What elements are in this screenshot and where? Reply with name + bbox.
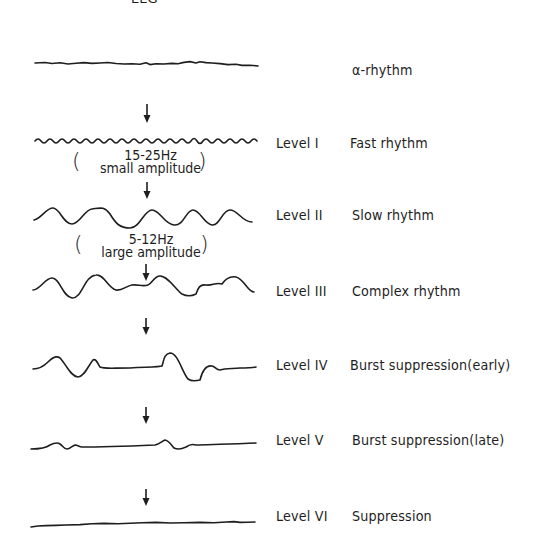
level-3-complex-wave [33,275,254,298]
level-5-burst-suppression-late-wave [31,440,256,449]
level-1-label: Level I [276,135,319,151]
close-paren: ) [200,231,209,256]
arrow-down-icon [143,318,150,335]
open-paren: ( [74,231,83,256]
arrow-down-icon [144,104,151,123]
arrow-down-icon [143,407,150,424]
slow-amplitude: large amplitude [84,246,219,259]
level-4-burst-suppression-early-wave [33,353,256,381]
close-paren: ) [198,148,207,173]
level-4-description: Burst suppression(early) [350,357,510,373]
level-2-label: Level II [276,207,323,223]
fast-rhythm-note: 15-25Hz small amplitude [85,149,216,175]
level-2-slow-wave [34,208,252,228]
level-1-fast-wave [35,139,257,144]
arrow-down-icon [143,264,150,281]
level-2-description: Slow rhythm [352,207,434,223]
level-6-suppression-wave [31,522,255,527]
level-6-description: Suppression [352,508,432,524]
level-3-label: Level III [276,283,327,299]
level-5-description: Burst suppression(late) [352,432,505,448]
open-paren: ( [72,148,81,173]
level-4-label: Level IV [276,357,328,373]
alpha-rhythm-label: α-rhythm [352,62,413,78]
level-5-label: Level V [276,432,324,448]
fast-amplitude: small amplitude [85,162,216,175]
level-3-description: Complex rhythm [352,283,461,299]
arrow-down-icon [143,489,150,506]
level-6-label: Level VI [276,508,328,524]
arrow-down-icon [144,182,151,199]
alpha-rhythm-wave [35,62,258,66]
slow-rhythm-note: 5-12Hz large amplitude [84,233,219,259]
eeg-waveforms [0,0,550,559]
level-1-description: Fast rhythm [350,135,428,151]
